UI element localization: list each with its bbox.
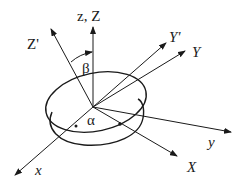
horizontal-ellipse	[40, 63, 152, 141]
coordinate-diagram: z, Z Z' β Y' Y y X x α	[0, 0, 246, 185]
label-zZ: z, Z	[77, 8, 100, 24]
intersection-dot	[75, 125, 78, 128]
intersection-dot	[118, 122, 122, 126]
label-x: x	[34, 162, 42, 178]
label-Z-prime: Z'	[27, 36, 39, 52]
axis-Y-prime	[93, 43, 166, 107]
label-y: y	[206, 134, 215, 150]
axis-x	[15, 107, 93, 175]
axis-Y	[93, 51, 185, 107]
tilted-ellipse	[50, 99, 144, 145]
label-Y-prime: Y'	[169, 29, 181, 45]
label-X: X	[186, 159, 197, 175]
label-beta: β	[82, 60, 90, 76]
label-Y: Y	[192, 44, 202, 60]
label-alpha: α	[87, 112, 95, 128]
